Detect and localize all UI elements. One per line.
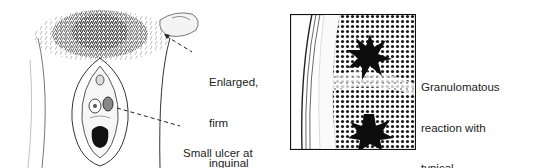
anatomy-drawing <box>20 0 210 168</box>
label-line: Granulomatous <box>421 81 530 95</box>
ulcer-leader-line <box>117 108 180 126</box>
label-line: Enlarged, <box>209 76 258 90</box>
label-line: typical <box>421 162 530 168</box>
label-line: reaction with <box>421 122 530 136</box>
anatomy-illustration <box>20 0 210 168</box>
label-small-ulcer: Small ulcer at site of infection <box>183 120 260 168</box>
label-line: Small ulcer at <box>183 147 260 161</box>
histology-drawing <box>290 14 416 150</box>
label-granulomatous-reaction: Granulomatous reaction with typical stel… <box>421 54 530 168</box>
histology-illustration <box>290 14 416 150</box>
